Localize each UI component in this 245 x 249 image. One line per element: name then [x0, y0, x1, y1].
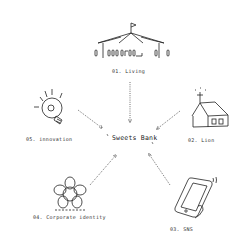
house-icon — [192, 88, 228, 127]
node-label-corporate: 04. Corporate identity — [33, 214, 106, 220]
edge-corporate-center — [90, 155, 116, 185]
edge-sns-center — [149, 154, 170, 185]
node-label-living: 01. Living — [112, 68, 145, 74]
circus-tent-icon — [95, 23, 169, 58]
flower-emblem-icon — [54, 177, 86, 210]
edge-lion-center — [157, 111, 180, 129]
smartphone-icon — [175, 177, 217, 218]
node-label-innovation: 05. innovation — [26, 136, 72, 142]
node-label-sns: 03. SNS — [170, 226, 193, 232]
diagram-canvas: 01. Living 02. Lion 03. SNS 04. Corporat… — [0, 0, 245, 249]
diagram-art — [0, 0, 245, 249]
center-label: Sweets Bank — [112, 134, 157, 142]
edge-innovation-center — [78, 110, 102, 128]
node-label-lion: 02. Lion — [188, 137, 214, 143]
lightbulb-icon — [34, 89, 62, 124]
